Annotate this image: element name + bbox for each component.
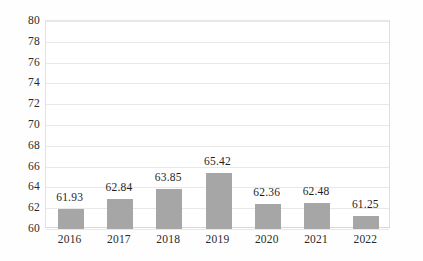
bar-2016 [58, 209, 84, 229]
y-tick-label-70: 70 [6, 119, 40, 131]
gridline-70 [46, 125, 389, 126]
data-label-2021: 62.48 [286, 186, 346, 198]
bar-2020 [255, 204, 281, 229]
gridline-68 [46, 146, 389, 147]
data-label-2018: 63.85 [138, 172, 198, 184]
bar-chart: 8078767472706866646260 61.9362.8463.8565… [0, 0, 423, 261]
y-tick-label-60: 60 [6, 223, 40, 235]
bar-2017 [107, 199, 133, 229]
bar-2022 [353, 216, 379, 229]
y-tick-label-78: 78 [6, 36, 40, 48]
gridline-80 [46, 21, 389, 22]
gridline-60 [46, 229, 389, 230]
bar-2019 [206, 173, 232, 229]
y-tick-label-62: 62 [6, 202, 40, 214]
y-tick-label-66: 66 [6, 161, 40, 173]
y-tick-label-80: 80 [6, 15, 40, 27]
gridline-72 [46, 104, 389, 105]
data-label-2022: 61.25 [335, 199, 395, 211]
x-tick-label-2022: 2022 [335, 234, 395, 246]
y-tick-label-64: 64 [6, 181, 40, 193]
y-tick-label-72: 72 [6, 98, 40, 110]
gridline-76 [46, 63, 389, 64]
bar-2021 [304, 203, 330, 229]
y-tick-label-74: 74 [6, 77, 40, 89]
bar-2018 [156, 189, 182, 229]
gridline-74 [46, 83, 389, 84]
data-label-2017: 62.84 [89, 182, 149, 194]
y-tick-label-68: 68 [6, 140, 40, 152]
y-tick-label-76: 76 [6, 57, 40, 69]
gridline-78 [46, 42, 389, 43]
data-label-2019: 65.42 [188, 156, 248, 168]
